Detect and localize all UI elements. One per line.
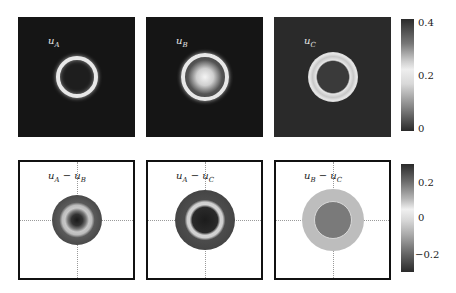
panel-uC: uC [274, 17, 391, 137]
panel-uB-minus-uC: uB − uC [274, 160, 391, 280]
colorbar-top-tick-max: 0.4 [418, 18, 434, 28]
colorbar-top-tick-mid: 0.2 [418, 71, 434, 81]
panel-uA: uA [18, 17, 135, 137]
panel-uA-minus-uB: uA − uB [18, 160, 135, 280]
colorbar-bottom-tick-zero: 0 [418, 213, 424, 223]
panel-label-uA-minus-uB: uA − uB [48, 170, 86, 184]
panel-label-uA-minus-uC: uA − uC [176, 170, 214, 184]
panel-label-uB: uB [176, 35, 188, 49]
colorbar-top-tick-min: 0 [418, 124, 424, 134]
difference-rings [175, 190, 235, 250]
colorbar-bottom-tick-pos: 0.2 [418, 178, 434, 188]
colorbar-bottom [401, 164, 414, 272]
panel-label-uB-minus-uC: uB − uC [304, 170, 342, 184]
bright-ring [56, 56, 98, 98]
panel-uB: uB [146, 17, 263, 137]
bright-outer-ring [181, 53, 229, 101]
panel-label-uC: uC [304, 35, 316, 49]
colorbar-bottom-tick-neg: −0.2 [415, 250, 439, 260]
colorbar-top [401, 19, 414, 131]
inner-disk [314, 201, 352, 239]
wide-annulus [308, 52, 358, 102]
panel-label-uA: uA [48, 35, 60, 49]
difference-rings [52, 195, 102, 245]
panel-uA-minus-uC: uA − uC [146, 160, 263, 280]
